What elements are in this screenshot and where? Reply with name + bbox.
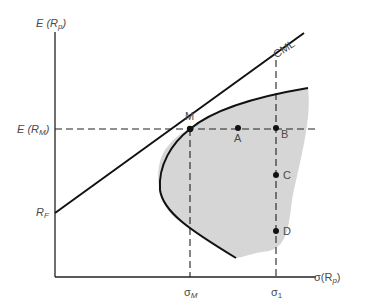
point-b-label: B [281,128,288,140]
erm-label: E (RM) [17,123,50,137]
y-axis-label: E (Rp) [36,17,66,31]
portfolio-point-a [235,125,241,131]
market-point-label: M [185,110,194,122]
point-d-label: D [283,225,291,237]
portfolio-point-c [273,172,279,178]
portfolio-point-d [273,228,279,234]
point-a-label: A [234,132,242,144]
cml-diagram: E (Rp) σ(Rp) E (RM) RF CML M A B C D σM … [0,0,371,307]
x-axis-label: σ(Rp) [314,271,341,285]
market-portfolio-point [187,126,193,132]
rf-label: RF [36,206,50,220]
point-c-label: C [283,169,291,181]
sigma-1-label: σ1 [271,286,283,300]
portfolio-point-b [273,125,279,131]
sigma-m-label: σM [184,286,198,300]
